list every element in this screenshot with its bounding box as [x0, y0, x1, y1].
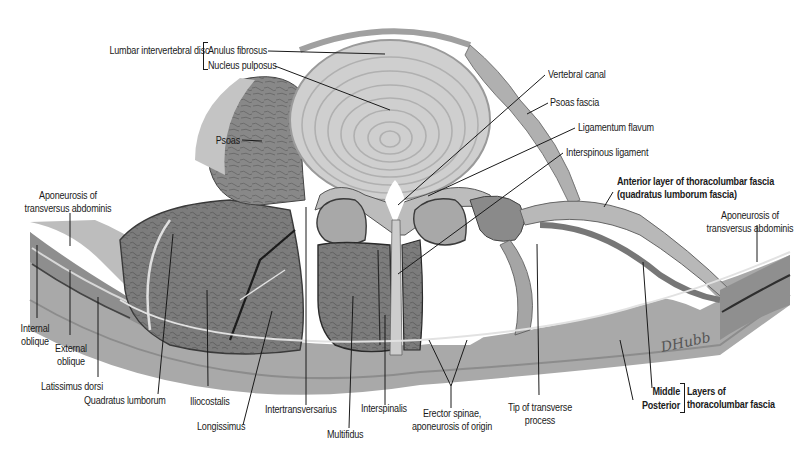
- tip-transverse-line-1: Tip of transverse: [504, 401, 576, 414]
- label-multifidus: Multifidus: [327, 428, 363, 441]
- apon-left-line-1: Aponeurosis of: [16, 189, 119, 202]
- label-intertransversarius: Intertransversarius: [265, 403, 337, 416]
- label-aponeurosis-transversus-right: Aponeurosis of transversus abdominis: [698, 209, 801, 234]
- anterior-layer-line-2: (quadratus lumborum fascia): [617, 188, 774, 201]
- layers-bracket: [680, 383, 685, 413]
- tip-transverse-line-2: process: [504, 414, 576, 427]
- label-psoas-fascia: Psoas fascia: [550, 96, 599, 109]
- label-interspinalis: Interspinalis: [361, 402, 407, 415]
- erector-line-1: Erector spinae,: [404, 407, 500, 420]
- label-longissimus: Longissimus: [197, 420, 245, 433]
- layers-line-1: Layers of: [687, 385, 775, 398]
- internal-oblique-line-1: Internal: [14, 322, 57, 335]
- label-ligamentum-flavum: Ligamentum flavum: [578, 121, 654, 134]
- label-middle-layer: Middle: [628, 385, 680, 398]
- label-anterior-layer-thoracolumbar-fascia: Anterior layer of thoracolumbar fascia (…: [617, 175, 774, 200]
- apon-right-line-2: transversus abdominis: [698, 222, 801, 235]
- external-oblique-line-1: External: [48, 342, 94, 355]
- label-external-oblique: External oblique: [48, 342, 94, 367]
- apon-right-line-1: Aponeurosis of: [698, 209, 801, 222]
- label-erector-spinae-aponeurosis: Erector spinae, aponeurosis of origin: [404, 407, 500, 432]
- apon-left-line-2: transversus abdominis: [16, 202, 119, 215]
- label-iliocostalis: Iliocostalis: [190, 395, 230, 408]
- label-tip-of-transverse-process: Tip of transverse process: [504, 401, 576, 426]
- label-quadratus-lumborum: Quadratus lumborum: [84, 394, 166, 407]
- label-psoas: Psoas: [197, 134, 240, 147]
- anterior-layer-line-1: Anterior layer of thoracolumbar fascia: [617, 175, 774, 188]
- label-anulus-fibrosus: Anulus fibrosus: [208, 44, 267, 57]
- label-layers-thoracolumbar-fascia: Layers of thoracolumbar fascia: [687, 385, 775, 410]
- anatomical-illustration: DHubb Lumbar intervertebral disc Anulus …: [0, 0, 802, 454]
- external-oblique-line-2: oblique: [48, 355, 94, 368]
- label-latissimus-dorsi: Latissimus dorsi: [41, 380, 103, 393]
- layers-line-2: thoracolumbar fascia: [687, 398, 775, 411]
- label-nucleus-pulposus: Nucleus pulposus: [208, 59, 277, 72]
- label-aponeurosis-transversus-left: Aponeurosis of transversus abdominis: [16, 189, 119, 214]
- label-vertebral-canal: Vertebral canal: [548, 68, 606, 81]
- label-posterior-layer: Posterior: [628, 399, 680, 412]
- label-lumbar-intervertebral-disc: Lumbar intervertebral disc: [109, 44, 204, 57]
- label-interspinous-ligament: Interspinous ligament: [566, 146, 648, 159]
- erector-line-2: aponeurosis of origin: [404, 420, 500, 433]
